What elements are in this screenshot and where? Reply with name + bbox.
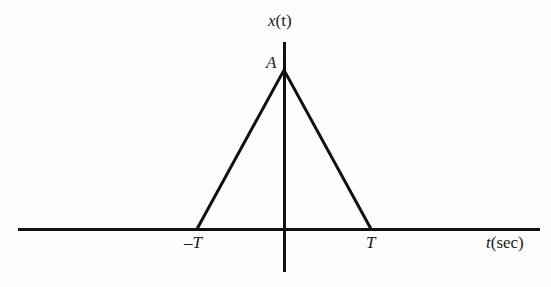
y-axis-label: x(t) xyxy=(268,12,292,29)
figure-container: x(t) A –T T t(sec) xyxy=(0,0,551,287)
x-tick-label-negative-t: –T xyxy=(184,234,202,251)
y-axis-label-argument: (t) xyxy=(276,11,292,30)
amplitude-label: A xyxy=(266,54,276,71)
x-axis-label-unit: (sec) xyxy=(491,233,524,252)
plot-canvas xyxy=(0,0,551,287)
x-axis-label: t(sec) xyxy=(486,234,524,251)
x-tick-label-positive-t: T xyxy=(366,234,375,251)
y-axis-label-variable: x xyxy=(268,11,276,30)
